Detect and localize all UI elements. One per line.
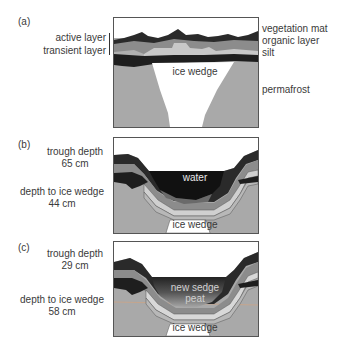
peat-label: peat <box>165 293 225 305</box>
panel-b-tag: (b) <box>18 139 30 151</box>
trough-depth-value-b: 65 cm <box>40 158 110 170</box>
ice-depth-value-b: 44 cm <box>14 198 110 210</box>
organic-layer-label: organic layer <box>262 35 319 47</box>
silt-label: silt <box>262 47 274 59</box>
panel-c-tag: (c) <box>18 242 30 254</box>
ice-wedge-label-b: ice wedge <box>165 219 225 231</box>
transient-layer-label: transient layer <box>43 45 106 57</box>
ice-depth-label-b: depth to ice wedge <box>14 186 110 198</box>
active-layer-label: active layer <box>55 32 106 44</box>
ice-depth-value-c: 58 cm <box>14 306 110 318</box>
layer-bracket <box>109 33 110 55</box>
panel-a-tag: (a) <box>18 16 30 28</box>
permafrost-label: permafrost <box>262 84 310 96</box>
ice-wedge-label-c: ice wedge <box>165 322 225 334</box>
vegetation-mat-label: vegetation mat <box>262 23 328 35</box>
ice-wedge-label-a: ice wedge <box>165 66 225 78</box>
trough-depth-label-b: trough depth <box>40 146 110 158</box>
trough-depth-label-c: trough depth <box>40 248 110 260</box>
trough-depth-value-c: 29 cm <box>40 260 110 272</box>
ice-depth-label-c: depth to ice wedge <box>14 294 110 306</box>
water-label-b: water <box>165 172 225 184</box>
